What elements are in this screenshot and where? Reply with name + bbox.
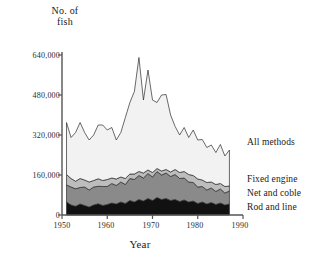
area-series-all-methods bbox=[67, 58, 230, 187]
plot-area bbox=[0, 0, 330, 263]
fish-catch-area-chart: No. of fish 640,000 480,000 320,000 160,… bbox=[0, 0, 330, 263]
stacked-areas bbox=[67, 58, 230, 216]
